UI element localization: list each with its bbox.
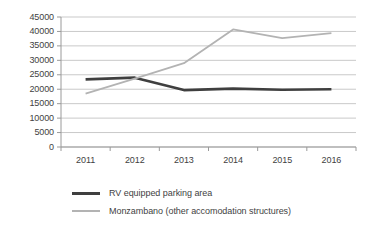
line-chart: 4500040000350003000025000200001500010000…: [0, 0, 372, 227]
y-axis-tick-label: 40000: [8, 27, 54, 36]
series-lines: [86, 29, 332, 93]
chart-legend: RV equipped parking areaMonzambano (othe…: [72, 184, 362, 220]
y-axis-tick-label: 20000: [8, 85, 54, 94]
y-axis-tick-label: 5000: [8, 128, 54, 137]
y-axis-tick-label: 15000: [8, 99, 54, 108]
x-axis-tick-label: 2016: [311, 156, 351, 165]
x-axis-tick-label: 2013: [164, 156, 204, 165]
axis-lines: [57, 17, 356, 147]
y-axis-tick-label: 30000: [8, 56, 54, 65]
dark-line-swatch: [72, 192, 100, 195]
x-axis-ticks: [61, 147, 356, 151]
light-line-swatch: [72, 210, 100, 212]
legend-item-label: RV equipped parking area: [109, 188, 212, 198]
x-axis-tick-label: 2014: [213, 156, 253, 165]
y-axis-tick-label: 25000: [8, 70, 54, 79]
x-axis-tick-label: 2011: [66, 156, 106, 165]
y-axis-tick-label: 35000: [8, 41, 54, 50]
x-axis-tick-label: 2015: [262, 156, 302, 165]
series-line: [86, 78, 332, 90]
legend-item-label: Monzambano (other accomodation structure…: [109, 206, 291, 216]
series-line: [86, 29, 332, 93]
legend-item[interactable]: Monzambano (other accomodation structure…: [72, 202, 362, 220]
y-axis-tick-label: 45000: [8, 13, 54, 22]
y-axis-tick-label: 10000: [8, 114, 54, 123]
x-axis-tick-label: 2012: [115, 156, 155, 165]
legend-item[interactable]: RV equipped parking area: [72, 184, 362, 202]
gridlines: [61, 17, 356, 147]
y-axis-tick-label: 0: [8, 143, 54, 152]
